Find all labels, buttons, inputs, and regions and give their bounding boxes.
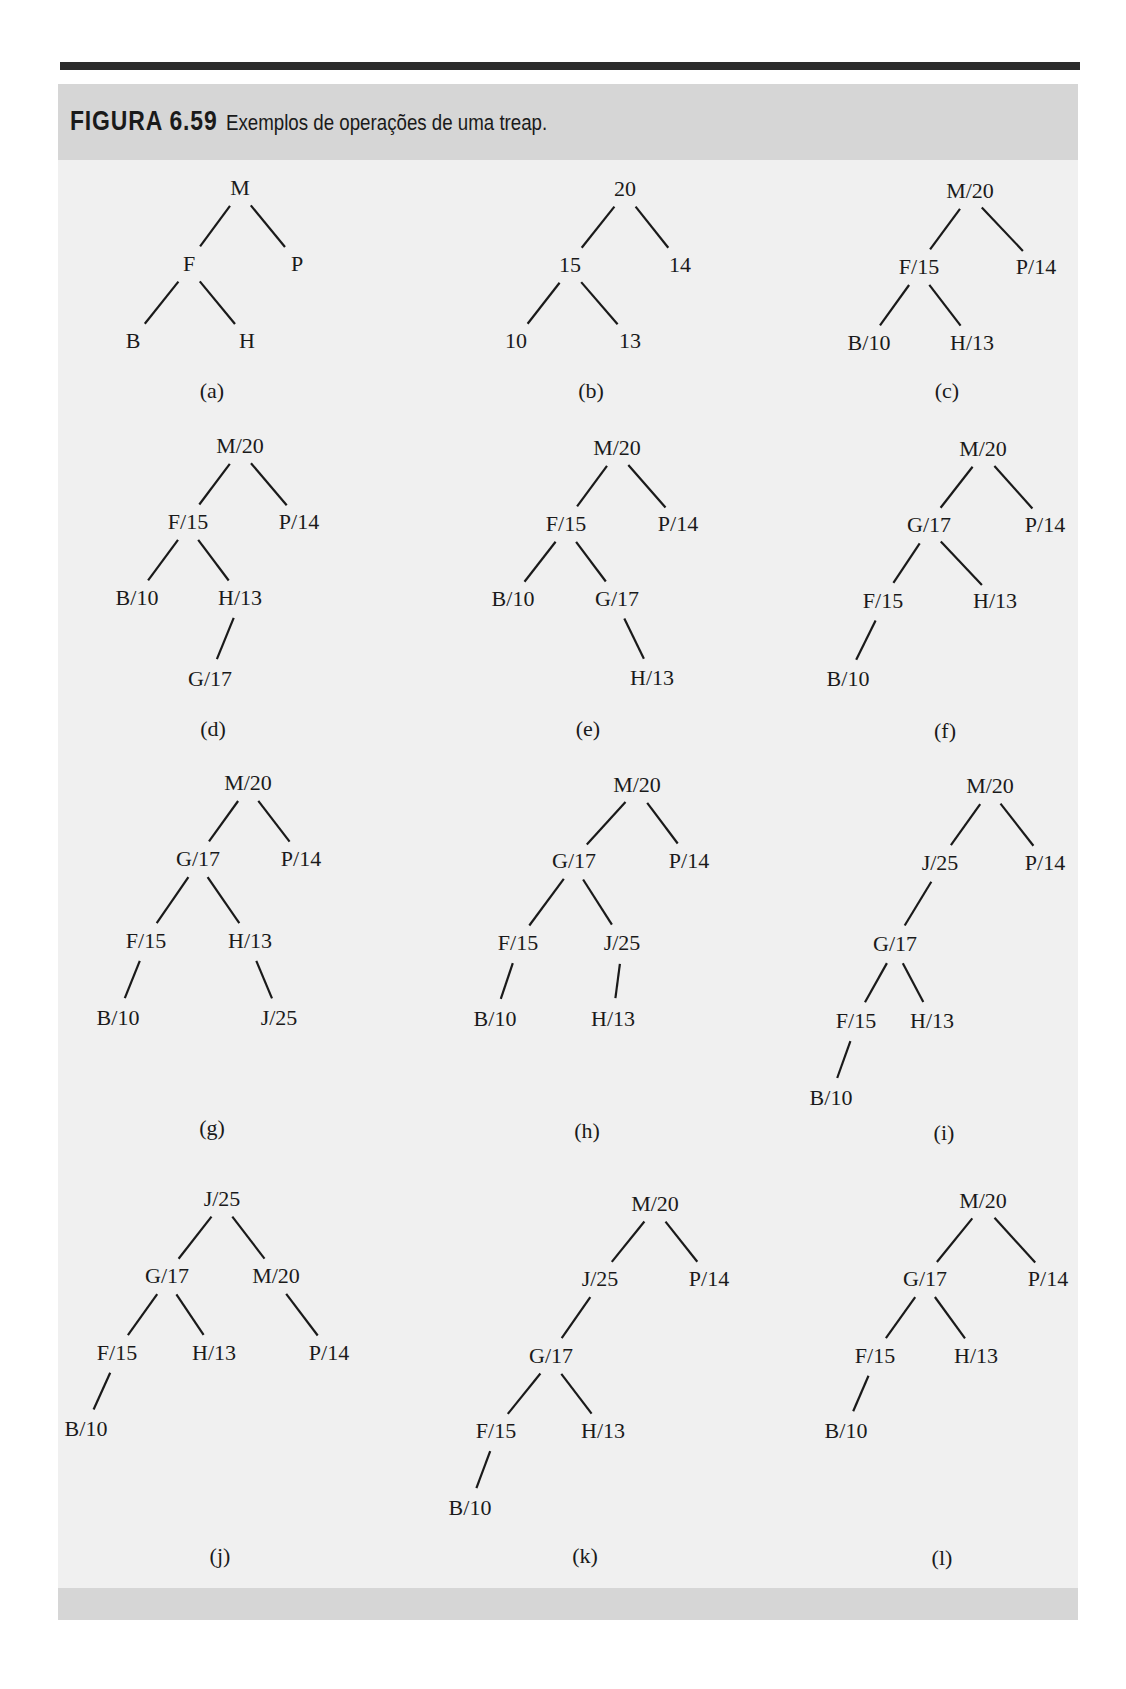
- tree-node: P/14: [279, 509, 319, 534]
- tree-edge: [217, 618, 234, 659]
- subfigure-label: (i): [934, 1120, 955, 1145]
- tree-edge: [856, 620, 875, 659]
- subfigure-label: (f): [934, 718, 956, 743]
- tree-node: M/20: [613, 772, 661, 797]
- tree-edge: [576, 542, 606, 582]
- tree-node: P/14: [669, 848, 709, 873]
- tree-node: M/20: [224, 770, 272, 795]
- tree-node: J/25: [604, 930, 641, 955]
- tree-edge: [145, 282, 179, 324]
- tree-edge: [587, 802, 626, 845]
- tree-node: J/25: [922, 850, 959, 875]
- tree-node: G/17: [595, 586, 639, 611]
- tree-node: P/14: [1028, 1266, 1068, 1291]
- tree-node: P/14: [281, 846, 321, 871]
- tree-node: P/14: [1016, 254, 1056, 279]
- tree-edge: [157, 877, 189, 923]
- tree-edge: [176, 1294, 203, 1335]
- tree-node: P/14: [658, 511, 698, 536]
- tree-node: G/17: [529, 1343, 573, 1368]
- treap-diagrams: MFPBH(a)2015141013(b)M/20F/15P/14B/10H/1…: [0, 0, 1126, 1689]
- tree-edge: [951, 804, 980, 845]
- tree-node: G/17: [145, 1263, 189, 1288]
- tree-f: M/20G/17P/14F/15H/13B/10(f): [827, 436, 1066, 743]
- tree-node: F/15: [899, 254, 939, 279]
- tree-edge: [994, 466, 1032, 509]
- tree-node: M/20: [959, 436, 1007, 461]
- tree-node: B/10: [827, 666, 870, 691]
- tree-node: P/14: [1025, 850, 1065, 875]
- tree-node: F/15: [476, 1418, 516, 1443]
- tree-node: G/17: [873, 931, 917, 956]
- tree-node: 20: [614, 176, 636, 201]
- tree-edge: [200, 206, 230, 247]
- tree-node: H/13: [591, 1006, 635, 1031]
- subfigure-label: (a): [200, 378, 224, 403]
- tree-edge: [125, 961, 140, 998]
- tree-node: P/14: [689, 1266, 729, 1291]
- tree-edge: [886, 1297, 915, 1338]
- tree-edge: [529, 879, 564, 926]
- tree-node: P/14: [309, 1340, 349, 1365]
- tree-node: B: [126, 328, 141, 353]
- tree-edge: [199, 464, 230, 505]
- tree-a: MFPBH(a): [126, 175, 303, 403]
- tree-edge: [837, 1041, 850, 1078]
- tree-edge: [562, 1297, 591, 1338]
- tree-edge: [501, 963, 513, 999]
- tree-j: J/25G/17M/20F/15H/13P/14B/10(j): [65, 1186, 350, 1568]
- tree-edge: [256, 961, 272, 999]
- tree-edge: [94, 1373, 111, 1410]
- tree-edge: [582, 207, 615, 248]
- tree-node: G/17: [903, 1266, 947, 1291]
- tree-b: 2015141013(b): [505, 176, 691, 403]
- tree-edge: [903, 963, 924, 1002]
- tree-edge: [508, 1374, 541, 1414]
- tree-node: F/15: [97, 1340, 137, 1365]
- tree-node: B/10: [449, 1495, 492, 1520]
- tree-node: G/17: [552, 848, 596, 873]
- tree-node: M/20: [959, 1188, 1007, 1213]
- subfigure-label: (k): [572, 1543, 598, 1568]
- tree-node: H: [239, 328, 255, 353]
- tree-edge: [209, 801, 238, 841]
- tree-edge: [935, 1297, 965, 1338]
- tree-node: H/13: [910, 1008, 954, 1033]
- tree-node: J/25: [204, 1186, 241, 1211]
- tree-node: B/10: [116, 585, 159, 610]
- subfigure-label: (e): [576, 716, 600, 741]
- tree-edge: [1001, 804, 1034, 846]
- tree-l: M/20G/17P/14F/15H/13B/10(l): [825, 1188, 1069, 1570]
- tree-edge: [853, 1376, 868, 1412]
- tree-e: M/20F/15P/14B/10G/17H/13(e): [492, 435, 699, 741]
- tree-c: M/20F/15P/14B/10H/13(c): [848, 178, 1057, 403]
- tree-node: H/13: [218, 585, 262, 610]
- tree-g: M/20G/17P/14F/15H/13B/10J/25(g): [97, 770, 322, 1140]
- tree-node: F: [183, 251, 195, 276]
- tree-node: B/10: [65, 1416, 108, 1441]
- tree-edge: [251, 205, 285, 247]
- tree-edge: [624, 619, 644, 659]
- tree-edge: [937, 1218, 972, 1262]
- tree-edge: [647, 803, 678, 844]
- tree-edge: [615, 964, 620, 998]
- tree-node: B/10: [810, 1085, 853, 1110]
- tree-node: G/17: [188, 666, 232, 691]
- tree-i: M/20J/25P/14G/17F/15H/13B/10(i): [810, 773, 1066, 1145]
- tree-edge: [525, 542, 556, 582]
- tree-edge: [941, 467, 973, 508]
- tree-node: M: [230, 175, 250, 200]
- tree-node: H/13: [630, 665, 674, 690]
- tree-edge: [865, 963, 887, 1002]
- tree-edge: [286, 1294, 318, 1336]
- tree-node: 13: [619, 328, 641, 353]
- tree-edge: [128, 1294, 157, 1335]
- tree-node: J/25: [261, 1005, 298, 1030]
- tree-node: B/10: [97, 1005, 140, 1030]
- tree-edge: [581, 282, 617, 324]
- tree-node: H/13: [581, 1418, 625, 1443]
- tree-edge: [528, 283, 560, 324]
- tree-edge: [666, 1222, 698, 1262]
- tree-edge: [208, 877, 240, 923]
- subfigure-label: (b): [578, 378, 604, 403]
